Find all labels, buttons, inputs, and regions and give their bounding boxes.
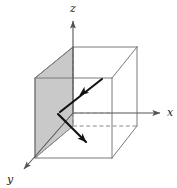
x-axis-label: x — [167, 106, 174, 119]
cube-edge — [112, 47, 137, 78]
figure-canvas: z x y — [0, 0, 177, 188]
cube-edge — [112, 126, 137, 158]
z-axis-label: z — [69, 2, 76, 15]
y-axis-label: y — [6, 173, 14, 186]
shaded-cross-section — [35, 47, 73, 158]
vector-diagram: z x y — [0, 0, 177, 188]
